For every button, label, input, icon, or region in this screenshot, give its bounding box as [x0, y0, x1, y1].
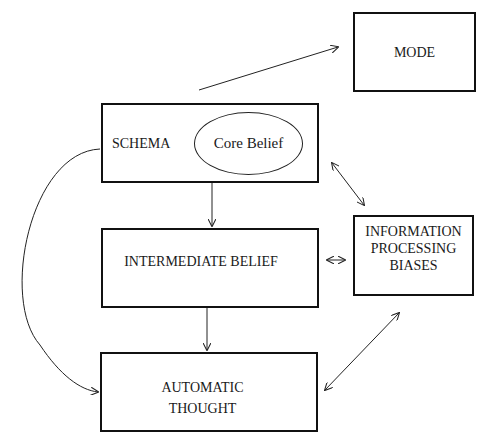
curved-arrow-schema-to-automatic [22, 149, 100, 392]
core-belief-ellipse: Core Belief [194, 112, 303, 175]
automatic-line-2: THOUGHT [100, 398, 305, 419]
info-line-3: BIASES [353, 257, 474, 274]
schema-label: SCHEMA [112, 135, 184, 152]
arrow-schema-to-mode [199, 47, 338, 90]
automatic-thought-label: AUTOMATIC THOUGHT [100, 377, 305, 419]
intermediate-belief-label: INTERMEDIATE BELIEF [101, 253, 301, 270]
core-belief-label: Core Belief [214, 135, 284, 152]
info-line-2: PROCESSING [353, 240, 474, 257]
information-processing-biases-label: INFORMATION PROCESSING BIASES [353, 223, 474, 274]
automatic-line-1: AUTOMATIC [100, 377, 305, 398]
bidirectional-arrow-schema-info [332, 163, 364, 205]
mode-label: MODE [353, 44, 476, 61]
info-line-1: INFORMATION [353, 223, 474, 240]
bidirectional-arrow-automatic-info [325, 313, 399, 390]
